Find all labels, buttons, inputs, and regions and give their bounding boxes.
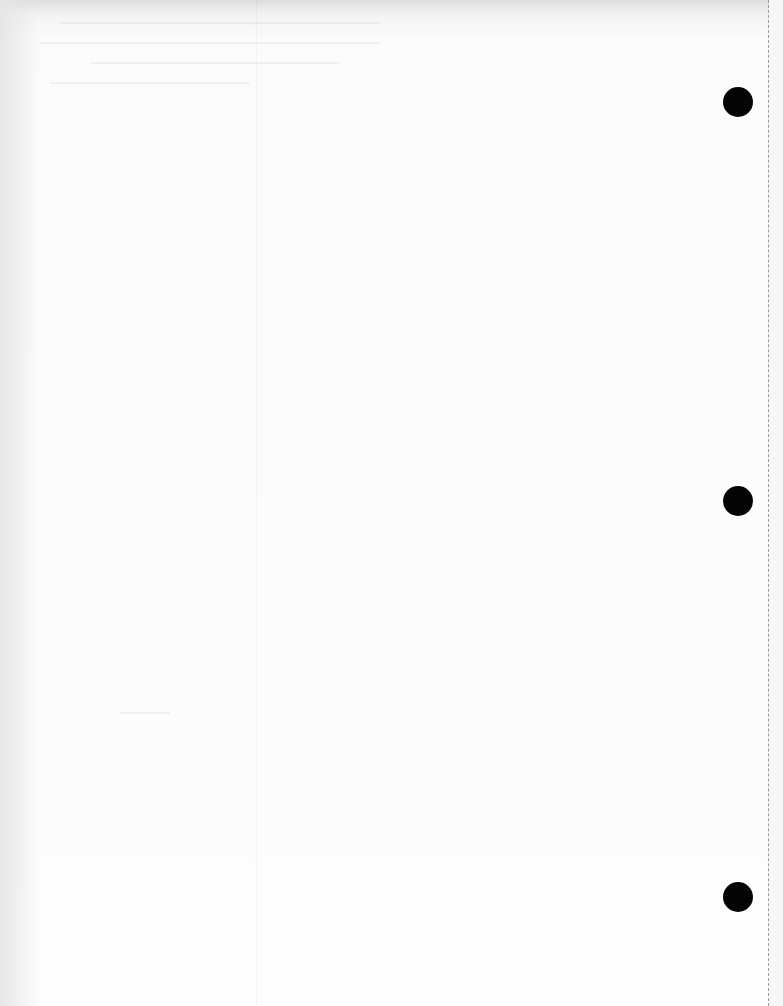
punch-hole-bottom: [723, 882, 753, 912]
bleed-through-mark: [40, 42, 380, 44]
faint-margin-line: [256, 0, 257, 1006]
tear-strip: [769, 0, 783, 1006]
paper-sheet: [0, 0, 783, 1006]
left-edge-shadow: [0, 0, 40, 1006]
punch-hole-middle: [723, 486, 753, 516]
bleed-through-mark: [50, 82, 250, 84]
bleed-through-mark: [90, 62, 340, 64]
bleed-through-mark: [120, 712, 170, 714]
punch-hole-top: [723, 87, 753, 117]
bleed-through-mark: [60, 22, 380, 24]
